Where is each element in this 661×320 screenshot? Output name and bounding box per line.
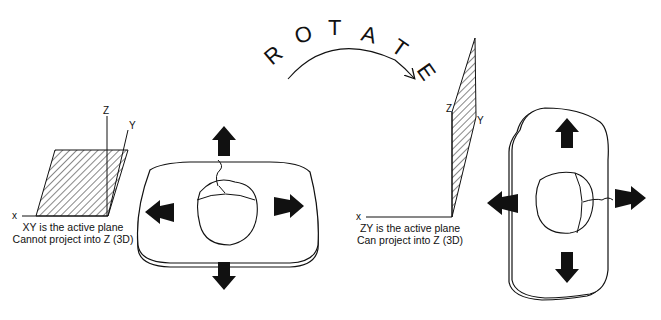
xy-plane-hatched [36, 150, 128, 216]
left-caption-line2: Cannot project into Z (3D) [13, 233, 134, 245]
rotate-letter-r: R [259, 40, 287, 69]
zy-plane-hatched [452, 38, 476, 217]
zy-plane-axes: Z Y x [356, 38, 484, 222]
rotation-diagram: Z Y x XY is the active plane Cannot proj… [0, 0, 661, 320]
rotate-letter-t: T [328, 15, 341, 40]
z-axis-label: Z [103, 105, 109, 116]
z-axis-label-right: Z [446, 103, 452, 114]
rotate-letter-e: E [412, 59, 441, 85]
arrow-right-icon [615, 186, 646, 210]
xy-plane-axes: Z Y x [12, 105, 136, 221]
left-caption-line1: XY is the active plane [23, 221, 124, 233]
rotate-letter-o: O [292, 20, 315, 49]
rotate-letter-t2: T [387, 34, 412, 62]
rotate-arrow: R O T A T E [259, 15, 441, 85]
y-axis-label-right: Y [477, 115, 484, 126]
x-axis-label: x [12, 210, 17, 221]
right-caption-line2: Can project into Z (3D) [357, 234, 463, 246]
right-caption-line1: ZY is the active plane [360, 222, 460, 234]
rotate-letter-a: A [359, 21, 380, 49]
diagram-canvas: Z Y x XY is the active plane Cannot proj… [0, 0, 661, 320]
arrow-up-icon [212, 126, 236, 156]
x-axis-label-right: x [356, 211, 361, 222]
y-axis-label: Y [129, 120, 136, 131]
